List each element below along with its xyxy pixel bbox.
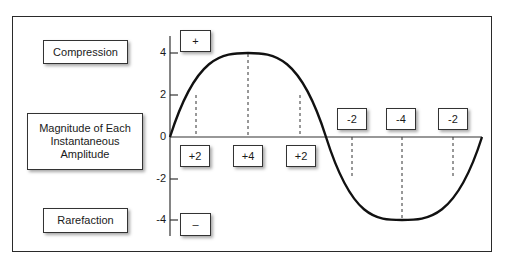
value-box-neg-3: -2: [438, 108, 468, 130]
tick-label-2: 2: [150, 88, 166, 100]
rarefaction-label: Rarefaction: [43, 208, 128, 233]
negative-polarity-box: –: [180, 213, 211, 236]
tick-label-0: 0: [150, 130, 166, 142]
value-box-pos-3: +2: [286, 145, 316, 167]
compression-label: Compression: [43, 40, 128, 64]
value-box-neg-2: -4: [386, 108, 416, 130]
positive-polarity-box: +: [180, 30, 211, 52]
magnitude-label: Magnitude of Each Instantaneous Amplitud…: [27, 113, 143, 170]
value-box-pos-1: +2: [180, 145, 210, 167]
tick-label-neg2: -2: [150, 172, 166, 184]
value-box-neg-1: -2: [337, 108, 367, 130]
tick-label-neg4: -4: [150, 213, 166, 225]
tick-label-4: 4: [150, 46, 166, 58]
value-box-pos-2: +4: [233, 145, 263, 167]
